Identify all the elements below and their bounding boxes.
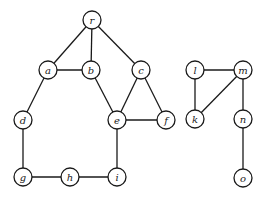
node-a: a	[39, 61, 57, 79]
node-c: c	[132, 61, 150, 79]
edge-layer	[23, 20, 243, 178]
node-b: b	[82, 61, 100, 79]
node-label: d	[20, 115, 26, 126]
node-f: f	[157, 111, 175, 129]
node-label: i	[115, 172, 118, 183]
node-r: r	[83, 11, 101, 29]
node-label: h	[67, 172, 73, 183]
node-label: n	[240, 114, 246, 125]
edge-m-k	[195, 70, 243, 119]
node-label: m	[238, 65, 247, 76]
node-i: i	[108, 168, 126, 186]
node-label: c	[138, 65, 144, 76]
node-label: k	[192, 114, 198, 125]
edge-r-c	[92, 20, 141, 70]
node-label: a	[45, 65, 51, 76]
graph-diagram: rabcdefghilmkno	[0, 0, 267, 199]
node-o: o	[234, 169, 252, 187]
node-layer: rabcdefghilmkno	[14, 11, 252, 187]
node-h: h	[61, 168, 79, 186]
node-m: m	[234, 61, 252, 79]
node-n: n	[234, 110, 252, 128]
node-e: e	[108, 111, 126, 129]
node-label: g	[20, 172, 26, 183]
node-l: l	[186, 61, 204, 79]
node-label: o	[240, 173, 246, 184]
node-label: e	[114, 115, 120, 126]
graph-canvas: rabcdefghilmkno	[0, 0, 267, 199]
node-k: k	[186, 110, 204, 128]
node-label: l	[193, 65, 196, 76]
node-label: b	[88, 65, 94, 76]
node-d: d	[14, 111, 32, 129]
node-g: g	[14, 168, 32, 186]
